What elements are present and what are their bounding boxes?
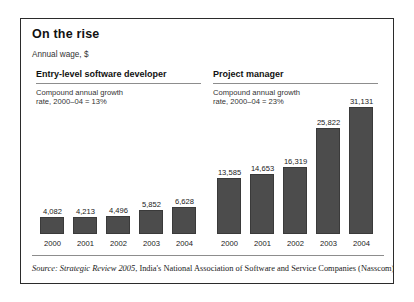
bar	[250, 174, 274, 234]
panel-divider	[36, 83, 201, 84]
source-rest: , India's National Association of Softwa…	[135, 264, 394, 273]
bar	[217, 178, 241, 234]
x-axis-tick-label: 2004	[342, 239, 381, 248]
bar	[283, 167, 307, 234]
bar-group: 4,2132001	[69, 87, 102, 249]
bar-group: 13,5852000	[213, 87, 246, 249]
panel-heading: Entry-level software developer	[36, 69, 167, 79]
bar-group: 16,3192002	[279, 87, 312, 249]
page-title: On the rise	[32, 27, 100, 41]
bar-value-label: 16,319	[276, 157, 315, 166]
bar-group: 31,1312004	[345, 87, 378, 249]
bar	[316, 128, 340, 234]
bar-group: 4,4962002	[102, 87, 135, 249]
bar-group: 25,8222003	[312, 87, 345, 249]
source-divider	[32, 255, 384, 256]
bar	[106, 216, 130, 234]
panel-divider	[213, 83, 378, 84]
chart-figure: On the rise Annual wage, $ Entry-level s…	[20, 18, 394, 284]
panel-project-manager: Project manager Compound annual growth r…	[213, 69, 378, 249]
bar-group: 6,6282004	[168, 87, 201, 249]
x-axis-tick-label: 2004	[165, 239, 204, 248]
bar-value-label: 6,628	[165, 197, 204, 206]
source-label: Source:	[32, 264, 58, 273]
bar-plot-left: 4,08220004,21320014,49620025,85220036,62…	[36, 87, 201, 249]
bar-plot-right: 13,585200014,653200116,319200225,8222003…	[213, 87, 378, 249]
bar-group: 4,0822000	[36, 87, 69, 249]
bar	[40, 217, 64, 234]
source-publication: Strategic Review 2005	[60, 264, 135, 273]
panel-heading: Project manager	[213, 69, 284, 79]
bar-value-label: 25,822	[309, 118, 348, 127]
bar	[139, 210, 163, 234]
source-note: Source: Strategic Review 2005, India's N…	[32, 264, 394, 273]
bar	[172, 207, 196, 234]
chart-subtitle: Annual wage, $	[32, 50, 88, 59]
panel-entry-level-software-developer: Entry-level software developer Compound …	[36, 69, 201, 249]
bar-group: 14,6532001	[246, 87, 279, 249]
bar-value-label: 31,131	[342, 97, 381, 106]
bar	[73, 217, 97, 234]
bar	[349, 107, 373, 234]
bar-group: 5,8522003	[135, 87, 168, 249]
